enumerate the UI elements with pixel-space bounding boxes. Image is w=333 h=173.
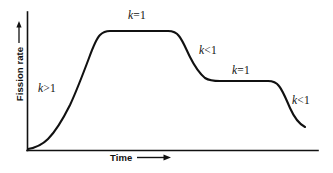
annotation-k-lt-1-first-decline: k<1: [199, 44, 217, 56]
annotation-k-gt-1: k>1: [38, 82, 56, 94]
annotation-k-eq-1-first-relation: =: [133, 9, 140, 21]
annotation-k-eq-1-second-value: 1: [244, 64, 250, 76]
x-axis-label-group: Time: [110, 152, 171, 163]
annotation-k-eq-1-first-value: 1: [140, 9, 146, 21]
annotation-k-eq-1-first-plateau: k=1: [128, 9, 146, 21]
annotation-k-lt-1-second-decline: k<1: [292, 94, 310, 106]
annotation-k-eq-1-second-plateau: k=1: [232, 64, 250, 76]
annotation-k-lt-1-second-relation: <: [297, 94, 304, 106]
annotation-k-lt-1-first-value: 1: [211, 44, 217, 56]
data-curve-group: [28, 31, 305, 149]
annotation-k-lt-1-second-value: 1: [304, 94, 310, 106]
fission-rate-figure: k>1 k=1 k<1 k=1 k<1 Fission rate Time: [0, 0, 333, 173]
y-axis-label-group: Fission rate: [10, 18, 28, 104]
fission-rate-curve: [28, 31, 305, 149]
annotation-k-gt-1-value: 1: [50, 82, 56, 94]
up-arrow-icon: [15, 21, 23, 43]
annotation-k-lt-1-first-relation: <: [204, 44, 211, 56]
right-arrow-icon: [137, 153, 171, 162]
x-axis-label: Time: [110, 152, 132, 163]
annotation-k-gt-1-relation: >: [43, 82, 50, 94]
annotation-k-eq-1-second-relation: =: [237, 64, 244, 76]
y-axis-label: Fission rate: [14, 47, 25, 102]
